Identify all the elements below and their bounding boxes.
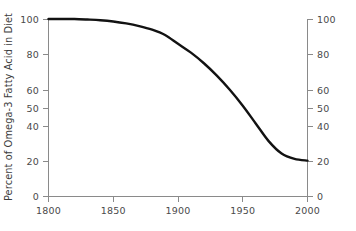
x-axis-ticks (49, 197, 308, 203)
y-label-right-40: 40 (317, 121, 330, 132)
data-series-omega3-curve (49, 19, 308, 161)
y-label-left-0: 0 (33, 191, 39, 202)
y-axis-left-ticks (43, 20, 49, 197)
x-label-1800: 1800 (36, 205, 61, 216)
y-label-left-50: 50 (27, 103, 40, 114)
y-axis-right-ticks (308, 20, 314, 197)
y-label-right-100: 100 (317, 14, 336, 25)
x-label-1850: 1850 (101, 205, 126, 216)
y-label-left-40: 40 (27, 121, 40, 132)
y-label-right-80: 80 (317, 49, 330, 60)
omega3-line-chart: 100 80 60 50 40 20 0 100 80 60 50 40 20 … (0, 0, 356, 231)
x-label-2000: 2000 (295, 205, 320, 216)
y-label-right-20: 20 (317, 156, 330, 167)
y-label-right-60: 60 (317, 85, 330, 96)
chart-figure: 100 80 60 50 40 20 0 100 80 60 50 40 20 … (0, 0, 356, 231)
x-label-1900: 1900 (166, 205, 191, 216)
y-label-left-100: 100 (20, 14, 39, 25)
y-label-right-0: 0 (317, 191, 323, 202)
x-label-1950: 1950 (230, 205, 255, 216)
y-label-left-60: 60 (27, 85, 40, 96)
y-label-left-20: 20 (27, 156, 40, 167)
y-axis-title: Percent of Omega-3 Fatty Acid in Diet (3, 13, 14, 201)
y-label-right-50: 50 (317, 103, 330, 114)
y-label-left-80: 80 (27, 49, 40, 60)
